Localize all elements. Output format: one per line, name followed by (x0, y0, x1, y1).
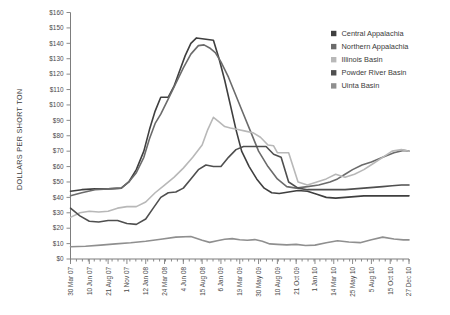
y-tick-label: $80 (53, 132, 64, 139)
y-tick-label: $50 (53, 178, 64, 185)
legend-label: Central Appalachia (342, 29, 405, 38)
x-tick-label: 4 Jun 08 (180, 267, 187, 292)
x-tick-label: 5 Aug 10 (368, 267, 376, 293)
legend-label: Illinois Basin (342, 55, 383, 64)
y-axis: $0$10$20$30$40$50$60$70$80$90$100$110$12… (49, 9, 70, 262)
series-line-powder-river-basin (71, 147, 410, 225)
chart-plot-area: $0$10$20$30$40$50$60$70$80$90$100$110$12… (0, 0, 450, 315)
x-tick-label: 30 Mar 07 (67, 267, 74, 296)
chart-legend: Central AppalachiaNorthern AppalachiaIll… (331, 29, 409, 90)
x-tick-label: 1 Nov 07 (123, 267, 130, 293)
legend-swatch (331, 57, 336, 62)
x-tick-label: 1 Jan 10 (311, 267, 318, 292)
y-tick-label: $110 (50, 86, 64, 93)
x-tick-label: 25 May 10 (349, 267, 357, 297)
x-axis: 30 Mar 0710 Jun 0721 Aug 071 Nov 0712 Ja… (67, 259, 413, 297)
y-tick-label: $90 (53, 117, 64, 124)
y-tick-label: $40 (53, 194, 64, 201)
y-tick-label: $10 (53, 240, 64, 247)
y-tick-label: $140 (49, 40, 64, 47)
x-tick-label: 21 Oct 09 (293, 267, 300, 295)
legend-swatch (331, 44, 336, 49)
y-tick-label: $60 (53, 163, 64, 170)
x-tick-label: 24 Mar 08 (161, 267, 168, 296)
y-tick-label: $160 (49, 9, 64, 16)
y-tick-label: $0 (56, 255, 64, 262)
y-tick-label: $100 (49, 101, 64, 108)
y-tick-label: $70 (53, 147, 64, 154)
y-tick-label: $130 (49, 55, 64, 62)
x-tick-label: 19 Mar 09 (236, 267, 243, 296)
x-tick-label: 21 Aug 07 (105, 267, 113, 296)
x-tick-label: 6 Jan 09 (217, 267, 224, 292)
x-tick-label: 10 Aug 09 (274, 267, 282, 296)
y-axis-title: DOLLARS PER SHORT TON (15, 89, 24, 190)
y-tick-label: $120 (49, 70, 64, 77)
x-tick-label: 15 Oct 10 (387, 267, 394, 295)
x-tick-label: 27 Dec 10 (405, 267, 412, 297)
coal-price-chart: $0$10$20$30$40$50$60$70$80$90$100$110$12… (0, 0, 450, 315)
legend-label: Northern Appalachia (342, 42, 410, 51)
legend-label: Uinta Basin (342, 81, 380, 90)
y-tick-label: $20 (53, 224, 64, 231)
legend-swatch (331, 83, 336, 88)
legend-label: Powder River Basin (342, 68, 407, 77)
legend-swatch (331, 70, 336, 75)
legend-swatch (331, 31, 336, 36)
x-tick-label: 10 Jun 07 (86, 267, 93, 296)
x-tick-label: 15 Aug 08 (199, 267, 207, 296)
y-tick-label: $30 (53, 209, 64, 216)
x-tick-label: 14 Mar 10 (330, 267, 337, 296)
y-tick-label: $150 (49, 24, 64, 31)
x-tick-label: 12 Jan 08 (142, 267, 149, 296)
series-line-uinta-basin (71, 237, 410, 247)
x-tick-label: 30 May 09 (255, 267, 263, 297)
